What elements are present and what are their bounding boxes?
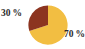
pie-graphic — [28, 5, 68, 45]
pie-label-minor: 30 % — [1, 9, 22, 19]
pie-svg — [28, 5, 68, 45]
pie-chart-figure: 30 % 70 % — [0, 0, 85, 49]
pie-label-major: 70 % — [64, 30, 85, 40]
